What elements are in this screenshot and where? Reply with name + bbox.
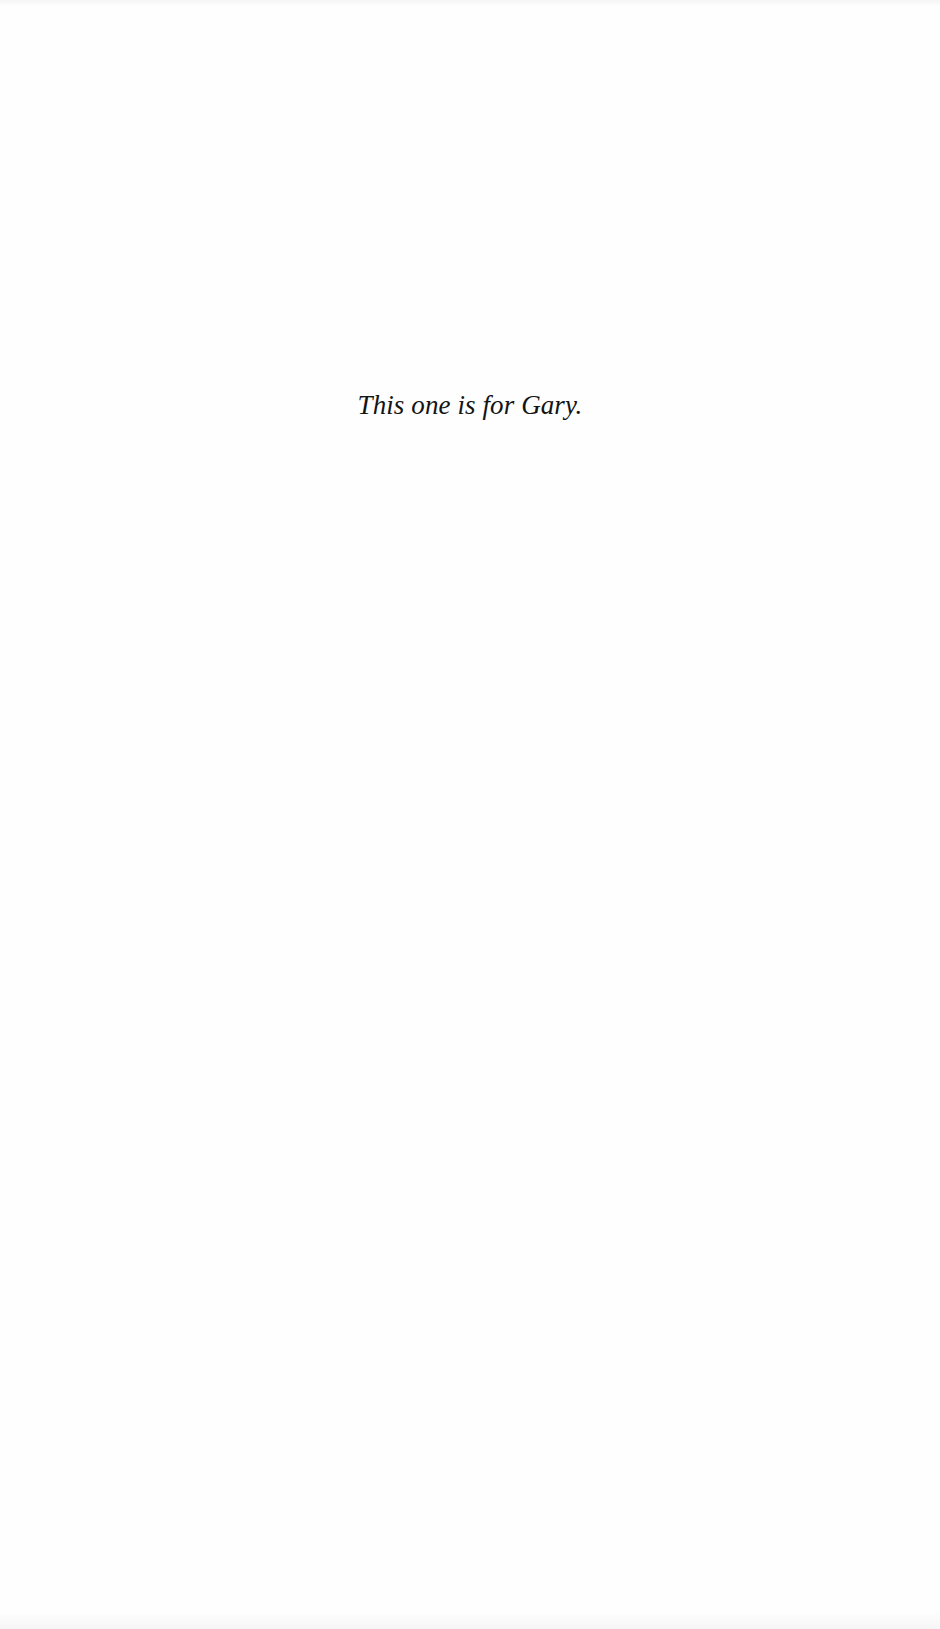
book-page: This one is for Gary. — [0, 0, 940, 1629]
scan-edge-top — [0, 0, 940, 6]
scan-edge-bottom — [0, 1611, 940, 1629]
dedication-text: This one is for Gary. — [0, 388, 940, 422]
